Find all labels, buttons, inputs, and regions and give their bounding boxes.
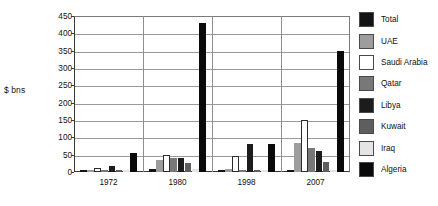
y-tick-label: 50 (46, 150, 72, 159)
bar-chart: $ bns 050100150200250300350400450 197219… (0, 0, 438, 206)
y-tick-label: 450 (46, 12, 72, 21)
legend-item[interactable]: Qatar (359, 73, 437, 94)
y-tick-label: 300 (46, 64, 72, 73)
bar (123, 170, 130, 172)
legend-item[interactable]: Libya (359, 95, 437, 116)
x-tick-label: 2007 (281, 178, 350, 187)
bar (185, 163, 192, 172)
legend-swatch-icon (359, 162, 374, 177)
bar (316, 151, 323, 172)
bar (192, 169, 199, 172)
bar (239, 170, 246, 172)
bar (294, 143, 301, 172)
legend-swatch-icon (359, 98, 374, 113)
y-tick-label: 0 (46, 168, 72, 177)
legend-swatch-icon (359, 141, 374, 156)
bar (80, 170, 87, 172)
legend-swatch-icon (359, 34, 374, 49)
bar (268, 144, 275, 172)
legend-item[interactable]: Iraq (359, 137, 437, 158)
y-tick-label: 150 (46, 116, 72, 125)
legend-item-label: Libya (381, 101, 401, 110)
legend-item-label: Kuwait (381, 122, 406, 131)
bar (178, 158, 185, 172)
bar (199, 23, 206, 172)
bar (149, 169, 156, 172)
bar (308, 148, 315, 172)
chart-legend: TotalUAESaudi ArabiaQatarLibyaKuwaitIraq… (359, 9, 437, 180)
bar (330, 170, 337, 172)
legend-swatch-icon (359, 119, 374, 134)
bar (156, 160, 163, 172)
bar (225, 169, 232, 172)
y-tick-label: 350 (46, 46, 72, 55)
group-separator (212, 16, 213, 172)
bar (116, 170, 123, 172)
bar (254, 170, 261, 172)
bar (163, 155, 170, 172)
bar (247, 144, 254, 172)
y-axis-title: $ bns (4, 85, 46, 95)
x-tick-label: 1980 (143, 178, 212, 187)
legend-item[interactable]: Saudi Arabia (359, 52, 437, 73)
legend-swatch-icon (359, 12, 374, 27)
legend-item-label: Algeria (381, 165, 407, 174)
bar (287, 170, 294, 172)
y-tick-label: 100 (46, 133, 72, 142)
bar-group (281, 16, 350, 172)
bar (170, 158, 177, 172)
bar (337, 51, 344, 172)
legend-item-label: Saudi Arabia (381, 58, 427, 67)
legend-item-label: Iraq (381, 144, 395, 153)
bar-group (74, 16, 143, 172)
legend-swatch-icon (359, 76, 374, 91)
y-tick-mark (71, 172, 74, 173)
y-tick-label: 200 (46, 98, 72, 107)
y-tick-label: 250 (46, 81, 72, 90)
bar (261, 170, 268, 172)
x-tick-label: 1998 (212, 178, 281, 187)
bar-group (212, 16, 281, 172)
bar (130, 153, 137, 172)
legend-swatch-icon (359, 55, 374, 70)
bar (101, 170, 108, 172)
legend-item[interactable]: Algeria (359, 159, 437, 180)
legend-item-label: Qatar (381, 79, 401, 88)
bar (109, 166, 116, 172)
y-tick-label: 400 (46, 29, 72, 38)
legend-item[interactable]: UAE (359, 30, 437, 51)
group-separator (143, 16, 144, 172)
bars-layer (74, 16, 350, 172)
bar (232, 156, 239, 172)
legend-item-label: Total (381, 15, 398, 24)
bar (218, 170, 225, 172)
bar-group (143, 16, 212, 172)
bar (94, 168, 101, 173)
bar (323, 162, 330, 172)
legend-item[interactable]: Total (359, 9, 437, 30)
group-separator (281, 16, 282, 172)
legend-item[interactable]: Kuwait (359, 116, 437, 137)
legend-item-label: UAE (381, 37, 398, 46)
x-tick-label: 1972 (74, 178, 143, 187)
bar (87, 170, 94, 172)
bar (301, 120, 308, 172)
